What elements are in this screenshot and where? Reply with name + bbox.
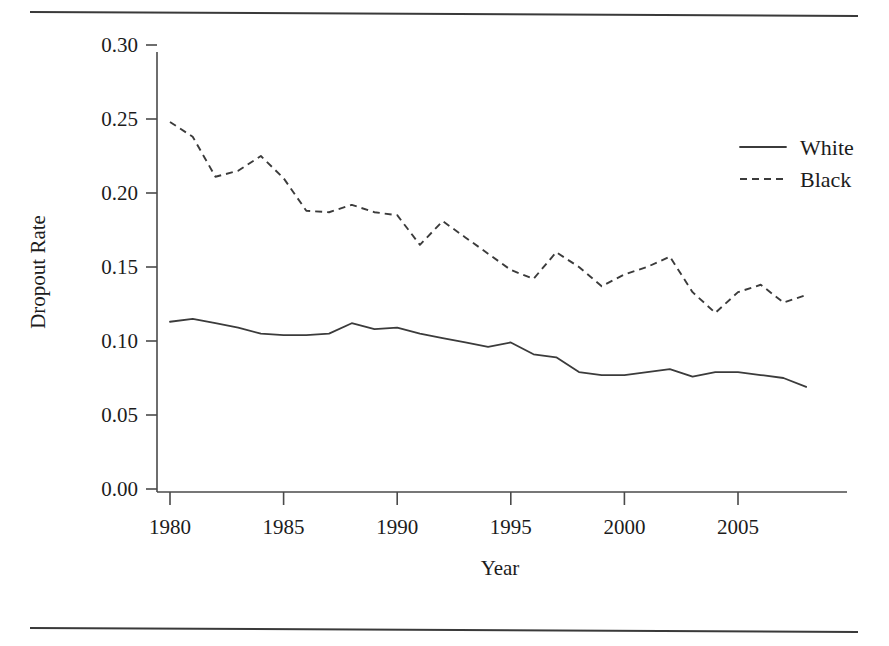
series-line-black (170, 122, 806, 313)
y-tick-label: 0.05 (101, 403, 138, 427)
y-axis-title: Dropout Rate (26, 215, 50, 329)
y-tick-label: 0.20 (101, 181, 138, 205)
y-tick-label: 0.15 (101, 255, 138, 279)
y-tick-label: 0.00 (101, 477, 138, 501)
y-tick-label: 0.25 (101, 107, 138, 131)
x-tick-label: 1995 (490, 515, 532, 539)
chart-svg: 0.000.050.100.150.200.250.30 19801985199… (0, 0, 889, 646)
chart-legend: White Black (740, 135, 854, 192)
series-line-white (170, 319, 806, 387)
x-tick-label: 1985 (263, 515, 305, 539)
figure-page: 0.000.050.100.150.200.250.30 19801985199… (0, 0, 889, 646)
y-tick-label: 0.10 (101, 329, 138, 353)
x-tick-label: 2005 (717, 515, 759, 539)
x-axis-tick-labels: 198019851990199520002005 (149, 515, 759, 539)
y-axis-tick-labels: 0.000.050.100.150.200.250.30 (101, 33, 138, 501)
legend-label-white: White (800, 135, 854, 160)
dropout-rate-line-chart: 0.000.050.100.150.200.250.30 19801985199… (0, 0, 889, 646)
y-axis-ticks (146, 45, 157, 489)
x-tick-label: 1980 (149, 515, 191, 539)
x-tick-label: 1990 (376, 515, 418, 539)
legend-label-black: Black (800, 167, 851, 192)
y-tick-label: 0.30 (101, 33, 138, 57)
x-tick-label: 2000 (603, 515, 645, 539)
x-axis-ticks (170, 492, 738, 505)
x-axis-title: Year (481, 556, 520, 580)
